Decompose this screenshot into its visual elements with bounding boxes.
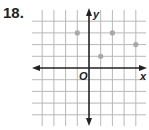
point bbox=[110, 30, 115, 35]
coordinate-plane: y x O bbox=[0, 0, 149, 130]
point bbox=[133, 42, 138, 47]
y-axis bbox=[86, 8, 92, 126]
y-axis-up-arrow-icon bbox=[86, 8, 92, 16]
x-axis-left-arrow-icon bbox=[32, 65, 40, 71]
x-axis-label: x bbox=[139, 70, 147, 82]
y-axis-down-arrow-icon bbox=[86, 118, 92, 126]
origin-label: O bbox=[79, 70, 88, 82]
point bbox=[98, 54, 103, 59]
point bbox=[75, 30, 80, 35]
y-axis-label: y bbox=[92, 8, 100, 20]
